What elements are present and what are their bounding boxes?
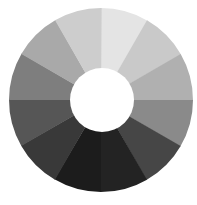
grayscale-wheel <box>0 0 197 205</box>
center-hole <box>70 68 134 132</box>
